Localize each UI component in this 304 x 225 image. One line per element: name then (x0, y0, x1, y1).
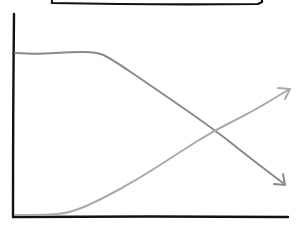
rising-line (15, 90, 288, 215)
declining-line (15, 52, 283, 183)
y-axis (13, 14, 14, 217)
top-frame-edge (52, 0, 262, 4)
crossing-lines-diagram (0, 0, 304, 225)
x-axis (13, 217, 288, 218)
